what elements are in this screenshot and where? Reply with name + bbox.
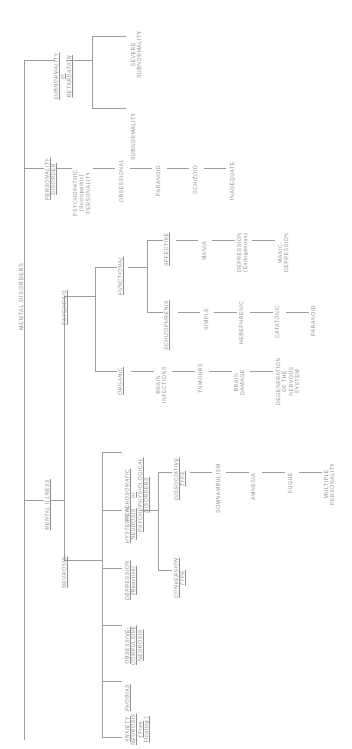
mental-disorders-tree-diagram: MENTAL DISORDERS SUBNORMALITY or RETARDA… <box>0 0 352 749</box>
node-label-line-0: SCHIZOID <box>192 165 198 194</box>
node-label-line-1: TYPE <box>179 457 185 500</box>
node-neurosis: NEUROSIS <box>61 557 67 589</box>
node-label-line-0: INADEQUATE <box>229 161 235 200</box>
connector-catatonic-to-paranoid <box>286 312 309 313</box>
node-label-line-0: FUGUE <box>287 472 293 493</box>
node-paranoid-personality: PARANOID <box>155 165 161 196</box>
connector-fugue-to-multiple-personality <box>299 472 322 473</box>
node-schizoid: SCHIZOID <box>192 165 198 194</box>
node-label-line-1: PERSONALITY <box>329 463 335 505</box>
connector-somnambulism-to-amnesia <box>226 472 249 473</box>
node-label-line-0: SCHIZOPHRENIA <box>163 300 169 350</box>
node-label-line-0: ORGANIC <box>117 367 123 395</box>
node-dissociative-type: DISSOCIATIVE TYPE <box>173 457 186 500</box>
node-label-line-0: PSYCHOSIS <box>61 290 67 325</box>
node-depression-endogenous: DEPRESSION (Endogenous) <box>236 232 249 272</box>
node-label-line-0: MENTAL ILLNESS <box>44 479 50 530</box>
connector-brain-damage-to-degeneration <box>250 371 273 372</box>
node-label-line-1: DAMAGE <box>239 369 245 395</box>
node-mental-illness: MENTAL ILLNESS <box>44 479 50 530</box>
branch-mental-illness-vertical <box>64 296 65 560</box>
connector-hysterical-stem <box>140 510 158 511</box>
node-obsessive-compulsive-neurosis: OBSESSIVE- COMPULSIVE NEUROSIS <box>124 625 143 665</box>
node-mania: MANIA <box>201 241 207 260</box>
connector-to-hysterical-neurosis <box>102 510 122 511</box>
node-label-line-1: DEPRESSION <box>283 232 289 272</box>
node-subnormality: SUBNORMALITY <box>130 112 136 160</box>
connector-to-phobias <box>102 681 122 682</box>
node-label-line-1: NEUROSIS <box>130 714 136 746</box>
node-label-line-1: (Endogenous) <box>242 232 248 272</box>
connector-to-schizophrenia <box>147 312 163 313</box>
branch-hysterical-vertical <box>158 472 159 570</box>
connector-root-to-subnormality <box>24 60 55 61</box>
trunk-line <box>24 60 25 740</box>
connector-root-to-mental-illness <box>24 500 44 501</box>
node-label-line-0: SOMNAMBULISM <box>215 464 221 513</box>
connector-psychosis-stem <box>81 296 95 297</box>
node-label-line-1: SUBNORMALITY <box>136 30 142 78</box>
node-hebephrenic: HEBEPHRENIC <box>238 300 244 344</box>
node-label-line-3: DISORDERS <box>143 458 149 532</box>
node-label-line-0: AMNESIA <box>250 473 256 500</box>
connector-root-to-personality-disorder <box>24 168 44 169</box>
connector-to-depression-reactive <box>102 568 122 569</box>
node-functional: FUNCTIONAL <box>117 256 123 295</box>
connector-to-conversion-type <box>158 570 172 571</box>
connector-to-functional <box>95 267 117 268</box>
node-catatonic: CATATONIC <box>274 304 280 338</box>
node-affective: AFFECTIVE <box>163 233 169 266</box>
branch-subnormality-vertical <box>92 36 93 108</box>
connector-amnesia-to-fugue <box>262 472 285 473</box>
node-label-line-1: TYPE <box>179 558 185 598</box>
node-label-line-1: NEUROSIS <box>130 505 136 543</box>
node-personality-disorder: PERSONALITY DISORDER <box>44 158 57 200</box>
connector-obsessional-to-paranoid <box>130 168 152 169</box>
node-label-line-0: FUNCTIONAL <box>117 256 123 295</box>
node-label-line-0: PHOBIAS <box>124 684 130 711</box>
node-label-line-3: Floating') <box>143 714 149 746</box>
node-severe-subnormality: SEVERE SUBNORMALITY <box>130 30 143 78</box>
connector-mania-to-depression <box>212 240 235 241</box>
node-brain-infections: BRAIN INFECTIONS <box>155 366 168 403</box>
node-amnesia: AMNESIA <box>250 473 256 500</box>
connector-personality-disorder-stem <box>56 168 72 169</box>
connector-mental-illness-stem <box>50 500 64 501</box>
connector-organic-to-brain-infections <box>131 371 154 372</box>
node-fugue: FUGUE <box>287 472 293 493</box>
connector-tumours-to-brain-damage <box>209 371 232 372</box>
connector-to-severe-subnormality <box>92 36 126 37</box>
connector-to-organic <box>95 371 117 372</box>
connector-simple-to-hebephrenic <box>214 312 237 313</box>
connector-to-obsessive-compulsive <box>102 625 122 626</box>
node-label-line-1: (Reactive) <box>130 560 136 600</box>
node-label-line-2: NEUROSIS <box>137 625 143 665</box>
node-label-line-2: PERSONALITY <box>85 169 91 216</box>
connector-to-psychosomatic <box>102 452 122 453</box>
node-label-line-0: SUBNORMALITY <box>130 112 136 160</box>
node-organic: ORGANIC <box>117 367 123 395</box>
node-label-line-0: SIMPLE <box>203 308 209 330</box>
node-psychosis: PSYCHOSIS <box>61 290 67 325</box>
connector-dissociative-to-somnambulism <box>190 472 212 473</box>
node-label-line-0: MANIA <box>201 241 207 260</box>
connector-brain-infections-to-tumours <box>172 371 195 372</box>
connector-functional-stem <box>128 267 147 268</box>
node-phobias: PHOBIAS <box>124 684 130 711</box>
branch-psychosis-vertical <box>95 267 96 371</box>
node-label-line-3: SYSTEM <box>294 357 300 405</box>
node-somnambulism: SOMNAMBULISM <box>215 464 221 513</box>
node-label-line-0: TUMOURS <box>197 363 203 393</box>
node-label-line-0: OBSESSIONAL <box>118 159 124 202</box>
node-manic-depression: MANIC- DEPRESSION <box>277 232 290 272</box>
connector-schizoid-to-inadequate <box>204 168 226 169</box>
node-degeneration-nervous-system: DEGENERATION OF THE NERVOUS SYSTEM <box>275 357 301 405</box>
node-hysterical-neurosis: HYSTERICAL NEUROSIS <box>124 505 137 543</box>
node-label-line-0: PARANOID <box>310 305 316 336</box>
node-label-line-1: DISORDER <box>50 158 56 200</box>
connector-to-affective <box>147 240 163 241</box>
connector-neurosis-stem <box>81 560 102 561</box>
branch-functional-vertical <box>147 240 148 312</box>
connector-paranoid-to-schizoid <box>167 168 189 169</box>
connector-to-dissociative-type <box>158 472 172 473</box>
